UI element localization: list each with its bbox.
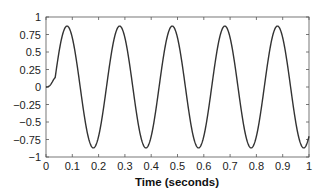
x-tick-label: 0 (43, 160, 49, 172)
y-tick-label: −1 (28, 151, 41, 163)
x-tick-label: 0.4 (144, 160, 159, 172)
y-tick-label: 0.25 (20, 64, 41, 76)
x-tick-label: 0.8 (249, 160, 264, 172)
signal-line (46, 26, 309, 148)
x-tick-label: 0.7 (222, 160, 237, 172)
x-axis-title: Time (seconds) (135, 176, 219, 188)
x-tick-label: 0.2 (91, 160, 106, 172)
y-tick-label: 0.75 (20, 29, 41, 41)
line-chart: 00.10.20.30.40.50.60.70.80.91 10.750.50.… (0, 0, 317, 196)
y-tick-label: 0 (35, 81, 41, 93)
x-tick-label: 0.5 (170, 160, 185, 172)
x-tick-label: 0.6 (196, 160, 211, 172)
x-tick-label: 0.9 (275, 160, 290, 172)
x-tick-label: 1 (306, 160, 312, 172)
y-tick-label: −0.5 (19, 116, 41, 128)
y-tick-label: −0.25 (13, 99, 41, 111)
x-tick-label: 0.1 (65, 160, 80, 172)
y-tick-label: −0.75 (13, 134, 41, 146)
y-tick-label: 0.5 (26, 46, 41, 58)
y-tick-label: 1 (35, 11, 41, 23)
x-tick-label: 0.3 (117, 160, 132, 172)
